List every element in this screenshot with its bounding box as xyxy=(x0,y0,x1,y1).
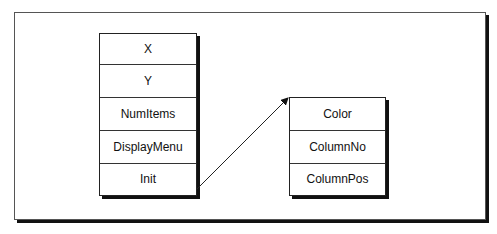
pointer-arrow-icon xyxy=(0,0,497,234)
